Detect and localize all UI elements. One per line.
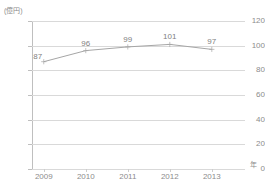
- marker-2011: [125, 44, 130, 49]
- data-label-2012: 101: [158, 32, 182, 41]
- data-label-2013: 97: [200, 37, 224, 46]
- series-markers: [41, 42, 214, 64]
- marker-2012: [167, 42, 172, 47]
- data-label-2010: 96: [74, 39, 98, 48]
- data-label-2011: 99: [116, 35, 140, 44]
- marker-2013: [209, 47, 214, 52]
- data-label-2009: 87: [26, 52, 50, 61]
- series-layer: [0, 0, 265, 194]
- marker-2010: [83, 48, 88, 53]
- line-chart: (億円) 年 0 20 40 60 80 100 120 2009 2010 2…: [0, 0, 265, 194]
